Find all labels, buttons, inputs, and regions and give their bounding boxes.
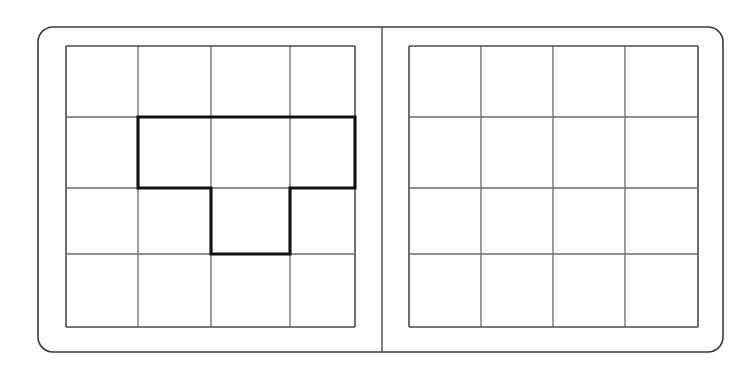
source-grid-cell-r3-c3[interactable]	[211, 188, 290, 254]
answer-grid-cell-r3-c1[interactable]	[409, 188, 481, 254]
answer-grid-cell-r4-c3[interactable]	[553, 254, 625, 327]
answer-grid-cell-r3-c4[interactable]	[625, 188, 698, 254]
answer-grid-cell-r1-c4[interactable]	[625, 46, 698, 117]
answer-grid-cell-r4-c2[interactable]	[481, 254, 553, 327]
source-grid-cell-r3-c4[interactable]	[290, 188, 355, 254]
source-grid-cell-r1-c3[interactable]	[211, 46, 290, 117]
source-grid-cell-r4-c2[interactable]	[138, 254, 211, 327]
answer-grid-cell-r2-c4[interactable]	[625, 117, 698, 188]
answer-grid-cell-r3-c2[interactable]	[481, 188, 553, 254]
source-grid-cell-r2-c2[interactable]	[138, 117, 211, 188]
source-grid-cell-r4-c3[interactable]	[211, 254, 290, 327]
answer-grid-cell-r2-c2[interactable]	[481, 117, 553, 188]
source-grid-cell-r3-c2[interactable]	[138, 188, 211, 254]
source-grid-cell-r2-c4[interactable]	[290, 117, 355, 188]
source-grid-cell-r2-c3[interactable]	[211, 117, 290, 188]
source-grid-cell-r3-c1[interactable]	[66, 188, 138, 254]
answer-grid-cell-r4-c1[interactable]	[409, 254, 481, 327]
answer-grid-cell-r4-c4[interactable]	[625, 254, 698, 327]
answer-grid-cell-r1-c2[interactable]	[481, 46, 553, 117]
answer-grid-cell-r2-c1[interactable]	[409, 117, 481, 188]
source-grid-cell-r1-c1[interactable]	[66, 46, 138, 117]
source-grid-cell-r1-c4[interactable]	[290, 46, 355, 117]
answer-grid-cell-r3-c3[interactable]	[553, 188, 625, 254]
answer-grid-cell-r1-c3[interactable]	[553, 46, 625, 117]
source-grid-cell-r4-c4[interactable]	[290, 254, 355, 327]
source-grid-cell-r2-c1[interactable]	[66, 117, 138, 188]
answer-grid-cell-r1-c1[interactable]	[409, 46, 481, 117]
answer-grid-cell-r2-c3[interactable]	[553, 117, 625, 188]
source-grid-cell-r4-c1[interactable]	[66, 254, 138, 327]
source-grid-cell-r1-c2[interactable]	[138, 46, 211, 117]
worksheet-canvas	[0, 0, 756, 370]
